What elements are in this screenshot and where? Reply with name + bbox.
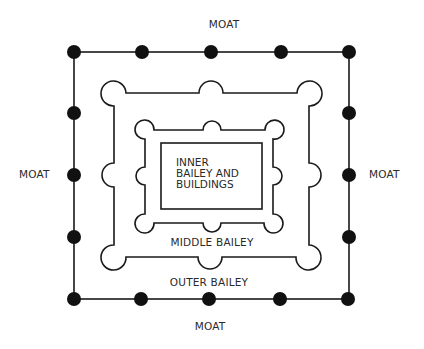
tower-dot [342,106,356,120]
moat-label-right: MOAT [369,169,400,180]
tower-dot [274,45,288,59]
outer-bailey-label: OUTER BAILEY [170,277,248,288]
middle-bailey-label: MIDDLE BAILEY [170,237,253,248]
tower-dot [342,168,356,182]
moat-label-top: MOAT [209,19,240,30]
moat-label-left: MOAT [19,169,50,180]
tower-dot [67,292,81,306]
tower-dot [204,45,218,59]
moat-label-bottom: MOAT [195,321,226,332]
tower-dot [67,168,81,182]
tower-dot [273,292,287,306]
tower-dot [342,230,356,244]
inner-bailey-line-3: BUILDINGS [176,179,239,190]
tower-dot [67,106,81,120]
tower-dot [134,292,148,306]
tower-dot [342,45,356,59]
tower-dot [341,292,355,306]
tower-dot [67,45,81,59]
inner-bailey-label: INNER BAILEY AND BUILDINGS [176,157,239,190]
tower-dot [135,45,149,59]
tower-dot [67,230,81,244]
tower-dot [202,292,216,306]
